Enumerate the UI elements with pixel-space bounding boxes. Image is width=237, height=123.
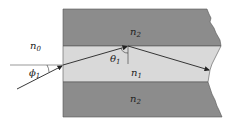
n0-label: n0 (30, 40, 41, 53)
waveguide-diagram: n0 n2 n1 n2 ϕ1 θ1 (0, 0, 237, 123)
phi1-label: ϕ1 (29, 67, 40, 80)
bottom-cladding (63, 82, 222, 117)
phi-arc (47, 65, 49, 72)
core (63, 46, 221, 82)
top-cladding (63, 9, 221, 46)
